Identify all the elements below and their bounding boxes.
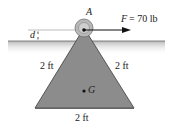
- force-symbol: F: [120, 13, 128, 24]
- centroid-dot: [82, 89, 85, 92]
- pin-a: [75, 19, 93, 37]
- right-side-label: 2 ft: [115, 60, 129, 71]
- distance-label: d: [30, 29, 36, 40]
- statics-diagram: d A F= 70 lb 2 ft 2 ft 2 ft G: [0, 0, 181, 129]
- centroid-label: G: [88, 84, 95, 95]
- distance-dimension: d: [30, 29, 38, 40]
- point-a-label: A: [85, 6, 93, 17]
- left-side-label: 2 ft: [40, 60, 54, 71]
- force-label: F= 70 lb: [120, 13, 158, 24]
- base-label: 2 ft: [75, 112, 89, 123]
- force-value: = 70 lb: [129, 13, 157, 24]
